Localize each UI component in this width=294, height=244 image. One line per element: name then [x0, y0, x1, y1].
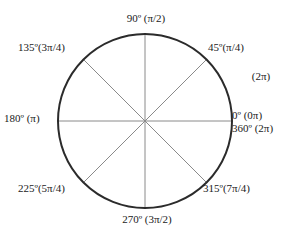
angle-label-two-pi: (2π): [236, 70, 286, 83]
angle-label-180: 180º (π): [4, 112, 62, 125]
unit-circle-diagram: 90º (π/2) 45º(π/4) 135º(3π/4) (2π) 0º (0…: [0, 0, 294, 244]
angle-label-0: 0º (0π): [232, 109, 294, 122]
angle-label-225: 225º(5π/4): [18, 182, 100, 195]
angle-label-90: 90º (π/2): [106, 12, 186, 25]
angle-label-270: 270º (3π/2): [104, 213, 190, 226]
angle-label-45: 45º(π/4): [208, 41, 278, 54]
angle-label-360: 360º (2π): [232, 122, 294, 135]
angle-label-315: 315º(7π/4): [203, 182, 285, 195]
angle-label-zero-threesixty: 0º (0π) 360º (2π): [232, 109, 294, 135]
angle-label-135: 135º(3π/4): [18, 41, 98, 54]
